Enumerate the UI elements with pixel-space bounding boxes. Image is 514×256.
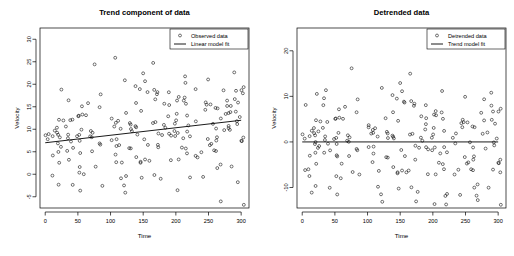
data-point [67,133,70,136]
data-point [323,139,326,142]
data-point [483,119,486,122]
data-point [167,115,170,118]
data-point [215,150,218,153]
data-point [226,105,229,108]
data-point [114,121,117,124]
data-point [328,186,331,189]
data-point [219,163,222,166]
data-point [94,165,97,168]
data-point [326,121,329,124]
data-point [443,146,446,149]
data-point [439,152,442,155]
data-point [493,144,496,147]
data-point [413,102,416,105]
x-axis-title: Time [138,232,152,239]
data-point [466,121,469,124]
data-point [80,128,83,131]
x-tick-label: 200 [428,218,437,224]
data-point [161,134,164,137]
data-point [425,117,428,120]
data-point [397,187,400,190]
plot-frame [40,28,249,208]
data-point [81,105,84,108]
data-point [58,161,61,164]
y-tick-label: 15 [26,104,32,110]
data-point [135,156,138,159]
data-point [402,100,405,103]
data-point [329,149,332,152]
data-point [173,130,176,133]
y-tick-label: 25 [26,59,32,65]
data-point [432,133,435,136]
x-axis: 050100150200250300Time [301,212,503,239]
data-point [414,144,417,147]
data-point [322,104,325,107]
data-point [492,168,495,171]
data-point [207,78,210,81]
x-tick-label: 300 [236,218,245,224]
chart-panel-trend-component: Trend component of data05010015020025030… [0,0,257,256]
data-point [380,193,383,196]
data-point [424,123,427,126]
data-point [444,194,447,197]
data-point [120,161,123,164]
data-point [60,145,63,148]
data-point [241,92,244,95]
data-point [472,146,475,149]
data-point [124,191,127,194]
data-point [209,103,212,106]
data-point [446,151,449,154]
data-point [461,126,464,129]
data-point [308,154,311,157]
data-point [339,177,342,180]
data-point [453,173,456,176]
data-point [120,177,123,180]
data-point [472,158,475,161]
data-point [51,174,54,177]
data-point [202,175,205,178]
data-point [401,90,404,93]
data-point [224,113,227,116]
data-point [308,135,311,138]
y-tick-label: 0 [26,173,32,176]
data-point [356,98,359,101]
data-point [409,72,412,75]
data-point [72,146,75,149]
data-point [464,95,467,98]
data-point [194,88,197,91]
y-tick-label: 20 [26,81,32,87]
data-point [226,99,229,102]
data-point [445,203,448,206]
data-point [64,125,67,128]
data-point [473,186,476,189]
data-point [46,138,49,141]
x-tick-label: 50 [332,218,338,224]
data-point [304,169,307,172]
data-point [440,111,443,114]
data-point [426,173,429,176]
x-tick-label: 150 [139,218,148,224]
y-axis: -1001020Velocity [270,48,294,192]
legend-entry-label: Observed data [191,33,229,39]
chart-legend: Detrended dataTrend model fit [427,29,505,49]
data-point [162,123,165,126]
data-point [230,165,233,168]
data-point [177,95,180,98]
data-point [324,135,327,138]
data-point [206,138,209,141]
data-point [372,152,375,155]
data-point [371,128,374,131]
data-point [56,142,59,145]
data-point [47,133,50,136]
data-point [454,142,457,145]
chart-title: Trend component of data [99,8,190,17]
data-point [355,111,358,114]
data-point [430,136,433,139]
y-tick-label: 10 [283,93,289,99]
data-point [142,72,145,75]
data-point [148,159,151,162]
y-tick-label: -10 [283,183,289,191]
data-point [486,131,489,134]
data-point [87,102,90,105]
x-tick-label: 200 [171,218,180,224]
